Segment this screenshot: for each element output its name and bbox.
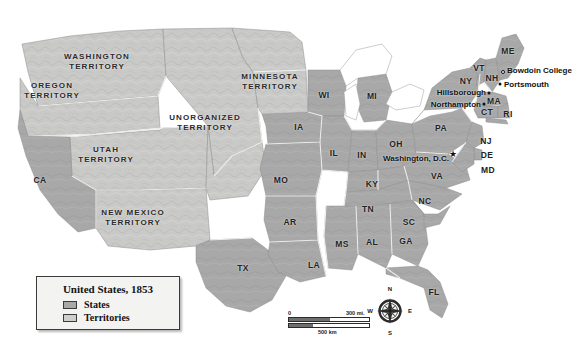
- compass-north-label: N: [388, 286, 392, 292]
- legend-entry-states: States: [63, 299, 179, 310]
- compass-south-label: S: [388, 330, 392, 336]
- northampton-marker-icon: [483, 103, 486, 106]
- compass-east-label: E: [408, 308, 412, 314]
- compass-west-label: W: [367, 308, 373, 314]
- map-legend: United States, 1853 States Territories: [36, 276, 180, 330]
- scale-miles-value: 300 mi.: [346, 310, 365, 316]
- scale-km-value: 500 km: [318, 329, 337, 335]
- legend-swatch-territories: [63, 314, 77, 322]
- legend-title: United States, 1853: [37, 283, 179, 295]
- scale-bar-miles: [288, 317, 370, 322]
- scale-bar-km: [288, 323, 370, 328]
- capital-star-icon: ★: [449, 150, 457, 159]
- legend-entry-territories: Territories: [63, 312, 179, 323]
- legend-label-states: States: [84, 299, 110, 310]
- hillsborough-marker-icon: [488, 92, 491, 95]
- legend-label-territories: Territories: [84, 312, 130, 323]
- scale-bar: 0 300 mi. 0 500 km: [288, 310, 378, 336]
- scale-miles-zero: 0: [288, 310, 291, 316]
- compass-rose: N S E W: [366, 286, 414, 336]
- legend-swatch-states: [63, 301, 77, 309]
- compass-rose-icon: [366, 286, 414, 336]
- portsmouth-marker-icon: [499, 83, 502, 86]
- historical-map: WASHINGTON TERRITORY OREGON TERRITORY MI…: [0, 0, 583, 354]
- bowdoin-college-marker-icon: [501, 70, 505, 74]
